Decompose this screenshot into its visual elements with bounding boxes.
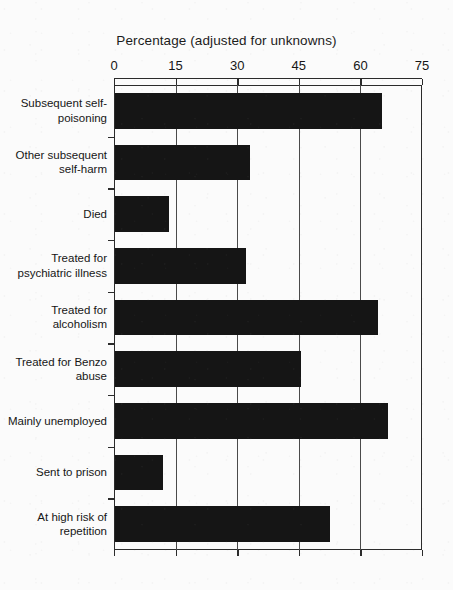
category-label: Subsequent self-poisoning	[0, 96, 107, 125]
x-axis-tick-label: 15	[168, 58, 182, 73]
category-label: Sent to prison	[0, 465, 107, 480]
x-tick-mark	[176, 79, 177, 85]
x-axis-tick-label: 0	[110, 58, 117, 73]
y-tick-mark	[108, 395, 114, 396]
bar	[115, 351, 301, 387]
y-tick-mark	[108, 292, 114, 293]
bar	[115, 93, 382, 129]
x-tick-mark	[422, 79, 423, 85]
x-tick-mark	[299, 550, 300, 556]
y-tick-mark	[108, 498, 114, 499]
y-tick-mark	[108, 188, 114, 189]
category-label: Treated foralcoholism	[0, 303, 107, 332]
category-label: Treated for Benzoabuse	[0, 355, 107, 384]
x-tick-mark	[422, 550, 423, 556]
x-tick-mark	[237, 550, 238, 556]
y-tick-mark	[108, 343, 114, 344]
category-label: At high risk ofrepetition	[0, 510, 107, 539]
y-tick-mark	[108, 447, 114, 448]
x-tick-mark	[360, 550, 361, 556]
category-label: Died	[0, 207, 107, 222]
x-axis-tick-label: 45	[292, 58, 306, 73]
category-label: Mainly unemployed	[0, 414, 107, 429]
x-tick-mark	[176, 550, 177, 556]
bar	[115, 403, 388, 439]
category-label: Other subsequentself-harm	[0, 148, 107, 177]
bar	[115, 145, 250, 181]
x-axis-tick-label: 60	[353, 58, 367, 73]
bar	[115, 506, 330, 542]
x-tick-mark	[114, 550, 115, 556]
x-tick-mark	[237, 79, 238, 85]
bar	[115, 455, 163, 491]
bar	[115, 300, 378, 336]
bar	[115, 248, 246, 284]
x-axis-top-rule	[114, 78, 422, 79]
y-tick-mark	[108, 137, 114, 138]
y-tick-mark	[108, 240, 114, 241]
chart-page: Percentage (adjusted for unknowns) 01530…	[0, 0, 453, 590]
chart-title: Percentage (adjusted for unknowns)	[0, 33, 453, 48]
x-tick-mark	[360, 79, 361, 85]
x-axis-tick-label: 75	[415, 58, 429, 73]
x-tick-mark	[114, 79, 115, 85]
x-tick-mark	[299, 79, 300, 85]
plot-area	[114, 85, 422, 550]
bar	[115, 196, 169, 232]
category-label: Treated forpsychiatric illness	[0, 251, 107, 280]
x-axis-tick-label: 30	[230, 58, 244, 73]
